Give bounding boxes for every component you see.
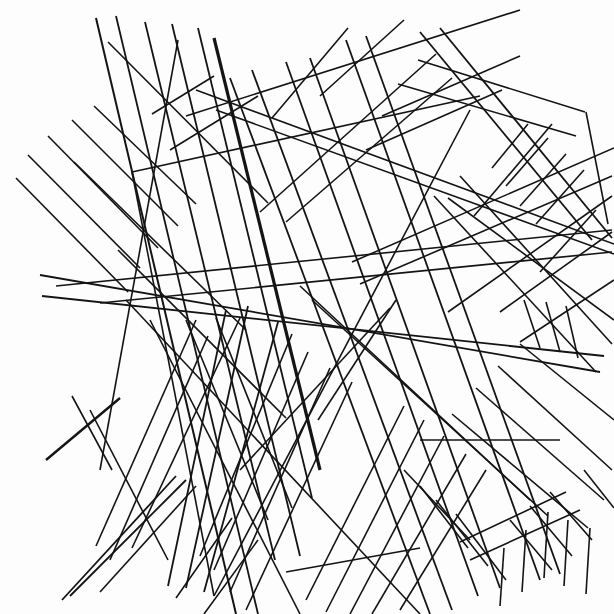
artwork-canvas (0, 0, 614, 614)
line-art-svg (0, 0, 614, 614)
